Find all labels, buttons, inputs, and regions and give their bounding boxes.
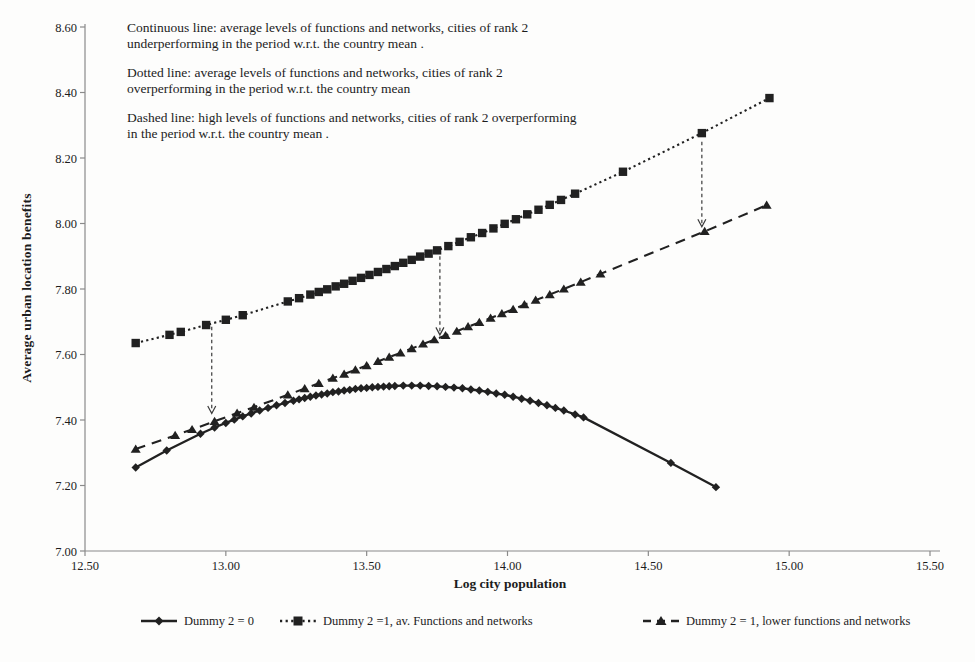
svg-text:15.50: 15.50 <box>916 559 944 573</box>
annotation-dotted-line2: overperforming in the period w.r.t. the … <box>127 81 410 96</box>
annotation-dashed-line2: in the period w.r.t. the country mean . <box>127 126 329 141</box>
svg-text:7.80: 7.80 <box>55 283 77 297</box>
legend-label: Dummy 2 = 0 <box>184 614 254 629</box>
annotation-continuous-line2: underperforming in the period w.r.t. the… <box>127 36 424 51</box>
annotation-dotted-line1: Dotted line: average levels of functions… <box>127 65 503 80</box>
annotation-dashed-line: Dashed line: high levels of functions an… <box>127 110 687 142</box>
scanned-chart-page: 7.007.207.407.607.808.008.208.408.6012.5… <box>0 0 975 662</box>
legend-label: Dummy 2 = 1, lower functions and network… <box>686 614 910 629</box>
annotation-block: Continuous line: average levels of funct… <box>127 20 687 155</box>
svg-text:14.00: 14.00 <box>493 559 521 573</box>
annotation-dashed-line1: Dashed line: high levels of functions an… <box>127 110 577 125</box>
annotation-continuous-line: Continuous line: average levels of funct… <box>127 20 687 52</box>
legend-item-dummy2-1-av: Dummy 2 =1, av. Functions and networks <box>280 611 533 631</box>
annotation-dotted-line: Dotted line: average levels of functions… <box>127 65 687 97</box>
legend-label: Dummy 2 =1, av. Functions and networks <box>323 614 533 629</box>
svg-text:7.40: 7.40 <box>55 414 77 428</box>
annotation-continuous-line1: Continuous line: average levels of funct… <box>127 20 528 35</box>
svg-text:14.50: 14.50 <box>634 559 662 573</box>
svg-text:8.60: 8.60 <box>55 21 77 35</box>
y-axis-title: Average urban location benefits <box>19 193 35 382</box>
svg-text:7.60: 7.60 <box>55 348 77 362</box>
legend-item-dummy2-0: Dummy 2 = 0 <box>141 611 254 631</box>
svg-text:13.50: 13.50 <box>353 559 381 573</box>
dashed-triangle-line-icon <box>643 615 679 627</box>
legend-item-dummy2-1-lower: Dummy 2 = 1, lower functions and network… <box>643 611 910 631</box>
svg-text:7.20: 7.20 <box>55 479 77 493</box>
svg-text:12.50: 12.50 <box>71 559 99 573</box>
svg-text:15.00: 15.00 <box>775 559 803 573</box>
svg-text:8.00: 8.00 <box>55 217 77 231</box>
x-axis-title: Log city population <box>454 576 567 592</box>
dotted-square-line-icon <box>280 615 316 627</box>
svg-text:7.00: 7.00 <box>55 545 77 559</box>
svg-text:8.20: 8.20 <box>55 152 77 166</box>
svg-text:8.40: 8.40 <box>55 86 77 100</box>
solid-diamond-line-icon <box>141 615 177 627</box>
svg-text:13.00: 13.00 <box>212 559 240 573</box>
